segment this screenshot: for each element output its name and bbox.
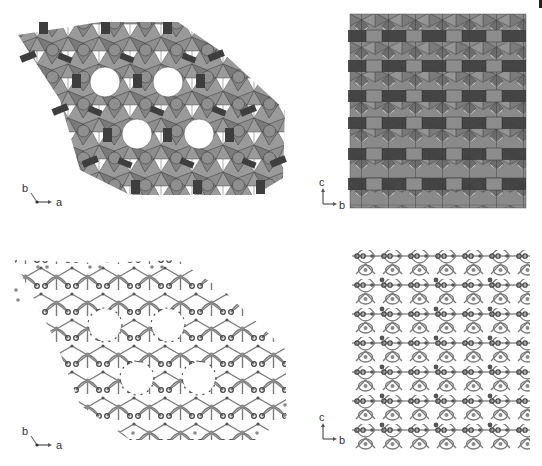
axis-label-c: c <box>319 176 325 188</box>
panel-polyhedral-bc: c b <box>300 0 542 230</box>
axis-label-b: b <box>339 199 345 211</box>
panel-polyhedral-ab: b a <box>0 0 300 230</box>
axis-indicator-cb: c b <box>319 176 345 211</box>
panel-ballstick-ab: b a <box>0 230 300 466</box>
polyhedral-honeycomb-diagram: b a <box>0 0 300 230</box>
axis-label-a: a <box>56 196 63 208</box>
panel-ballstick-bc: c b <box>300 230 542 466</box>
axis-indicator-ab: b a <box>22 425 63 451</box>
axis-label-b: b <box>22 182 28 194</box>
ballstick-grid-diagram: c b <box>300 230 542 466</box>
ballstick-honeycomb-diagram: b a <box>0 230 300 466</box>
polyhedral-grid-diagram: c b <box>300 0 542 230</box>
axis-label-c: c <box>319 411 325 423</box>
axis-label-a: a <box>56 439 63 451</box>
axis-label-b: b <box>22 425 28 437</box>
axis-label-b: b <box>339 434 345 446</box>
axis-indicator-cb: c b <box>319 411 345 446</box>
axis-indicator-ab: b a <box>22 182 63 208</box>
